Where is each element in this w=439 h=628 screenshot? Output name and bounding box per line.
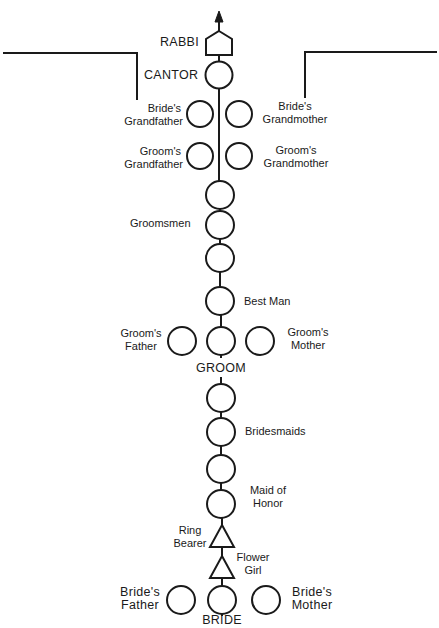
bride-circle-icon: [208, 586, 236, 614]
bridesmaid-circle-icon: [207, 384, 235, 412]
grooms-grandmother-label-2: Grandmother: [264, 157, 329, 169]
grooms-father: Groom's Father: [120, 327, 196, 355]
direction-arrow-icon: [215, 11, 223, 22]
bridesmaid-circle-icon: [207, 455, 235, 483]
cantor-circle-icon: [206, 62, 233, 89]
right-seating-bracket: [305, 52, 437, 98]
person-circle-icon: [168, 327, 196, 355]
ring-bearer: Ring Bearer: [173, 524, 234, 549]
grooms-father-label-2: Father: [125, 340, 157, 352]
bride-label: BRIDE: [202, 613, 242, 627]
groomsmen: Groomsmen: [130, 181, 234, 272]
grooms-grandfather: Groom's Grandfather: [124, 143, 213, 170]
ring-bearer-label-2: Bearer: [173, 537, 206, 549]
groomsman-circle-icon: [206, 244, 234, 272]
best-man-circle-icon: [206, 287, 234, 315]
brides-father: Bride's Father: [120, 585, 195, 614]
person-circle-icon: [187, 143, 213, 169]
brides-mother: Bride's Mother: [252, 585, 332, 614]
person-circle-icon: [167, 586, 195, 614]
person-circle-icon: [226, 143, 252, 169]
brides-grandfather: Bride's Grandfather: [124, 101, 213, 127]
ring-bearer-triangle-icon: [210, 525, 234, 547]
flower-girl-label-2: Girl: [244, 564, 261, 576]
groomsmen-label: Groomsmen: [130, 217, 191, 229]
maid-of-honor-circle-icon: [207, 490, 235, 518]
brides-grandmother-label-1: Bride's: [278, 100, 312, 112]
best-man: Best Man: [206, 287, 290, 315]
groom: GROOM: [196, 327, 246, 375]
groom-circle-icon: [207, 327, 235, 355]
groom-label: GROOM: [196, 361, 246, 375]
best-man-label: Best Man: [244, 295, 290, 307]
processional-diagram: RABBI CANTOR Bride's Grandfather Bride's…: [0, 0, 439, 628]
grooms-mother-label-1: Groom's: [287, 326, 329, 338]
flower-girl: Flower Girl: [210, 551, 270, 578]
grooms-grandfather-label-2: Grandfather: [124, 158, 183, 170]
groomsman-circle-icon: [206, 211, 234, 239]
person-circle-icon: [226, 101, 252, 127]
bridesmaids-label: Bridesmaids: [245, 425, 306, 437]
brides-grandfather-label-2: Grandfather: [124, 115, 183, 127]
person-circle-icon: [246, 327, 274, 355]
grooms-grandfather-label-1: Groom's: [140, 145, 182, 157]
grooms-grandmother-label-1: Groom's: [275, 144, 317, 156]
brides-grandfather-label-1: Bride's: [148, 102, 182, 114]
rabbi-pentagon-icon: [206, 31, 232, 55]
flower-girl-label-1: Flower: [236, 551, 269, 563]
cantor: CANTOR: [144, 62, 233, 89]
grooms-grandmother: Groom's Grandmother: [226, 143, 329, 169]
rabbi-label: RABBI: [160, 35, 199, 49]
brides-mother-label-2: Mother: [292, 598, 333, 612]
maid-of-honor-label-2: Honor: [253, 497, 283, 509]
grooms-mother-label-2: Mother: [291, 339, 326, 351]
cantor-label: CANTOR: [144, 68, 198, 82]
rabbi: RABBI: [160, 31, 232, 55]
ring-bearer-label-1: Ring: [179, 524, 202, 536]
brides-father-label-2: Father: [121, 598, 159, 612]
brides-grandmother-label-2: Grandmother: [263, 113, 328, 125]
brides-mother-label-1: Bride's: [292, 585, 332, 599]
groomsman-circle-icon: [206, 181, 234, 209]
grooms-father-label-1: Groom's: [120, 327, 162, 339]
bridesmaid-circle-icon: [207, 418, 235, 446]
grooms-mother: Groom's Mother: [246, 326, 329, 355]
bride: BRIDE: [202, 586, 242, 627]
brides-father-label-1: Bride's: [120, 585, 160, 599]
person-circle-icon: [252, 586, 280, 614]
left-seating-bracket: [3, 53, 137, 100]
flower-girl-triangle-icon: [210, 556, 234, 578]
brides-grandmother: Bride's Grandmother: [226, 100, 328, 127]
maid-of-honor-label-1: Maid of: [250, 484, 287, 496]
person-circle-icon: [187, 101, 213, 127]
maid-of-honor: Maid of Honor: [207, 455, 287, 518]
